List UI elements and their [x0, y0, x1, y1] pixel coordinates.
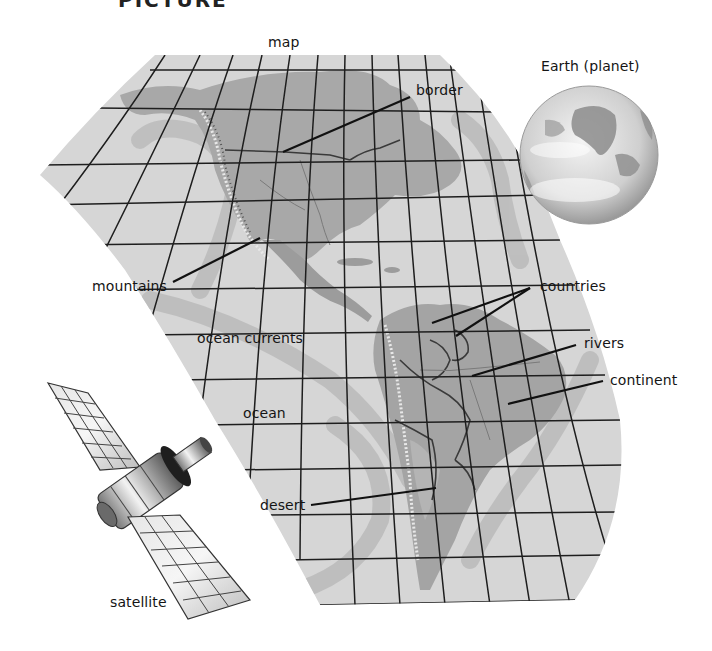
label-satellite: satellite	[110, 594, 167, 610]
label-map: map	[268, 34, 299, 50]
illustration-canvas	[0, 0, 712, 651]
label-ocean-currents: ocean currents	[197, 330, 303, 346]
earth-globe	[520, 86, 658, 224]
label-border: border	[416, 82, 463, 98]
label-mountains: mountains	[92, 278, 167, 294]
label-earth-planet: Earth (planet)	[541, 58, 640, 74]
label-desert: desert	[260, 497, 305, 513]
label-rivers: rivers	[584, 335, 624, 351]
label-countries: countries	[540, 278, 606, 294]
label-ocean: ocean	[243, 405, 286, 421]
label-continent: continent	[610, 372, 677, 388]
vocabulary-illustration: PICTURE	[0, 0, 712, 651]
solar-panel-top	[48, 383, 140, 470]
